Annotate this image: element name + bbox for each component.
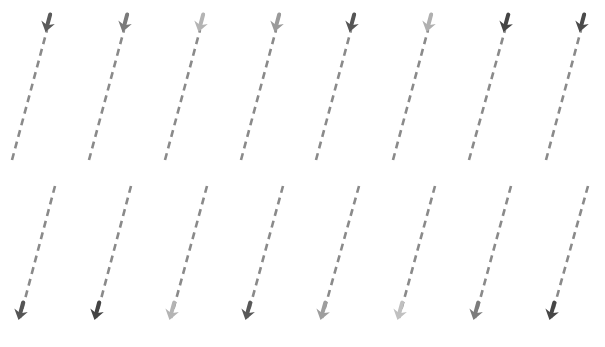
arrow-stem bbox=[21, 303, 24, 313]
top-dashed-arrow bbox=[393, 15, 436, 160]
arrow-stem bbox=[125, 15, 128, 25]
top-dashed-arrow bbox=[546, 15, 589, 160]
dashed-line bbox=[241, 30, 276, 160]
arrow-stem bbox=[506, 15, 509, 25]
dashed-line bbox=[322, 186, 359, 318]
arrow-stem bbox=[476, 303, 479, 313]
dashed-line bbox=[165, 30, 200, 160]
bottom-row-arrows bbox=[14, 186, 588, 320]
top-dashed-arrow bbox=[12, 15, 55, 160]
arrow-stem bbox=[201, 15, 204, 25]
arrow-stem bbox=[552, 303, 555, 313]
arrow-stem bbox=[172, 303, 175, 313]
dashed-line bbox=[399, 186, 435, 318]
bottom-dashed-arrow bbox=[14, 186, 55, 320]
bottom-dashed-arrow bbox=[545, 186, 588, 320]
bottom-dashed-arrow bbox=[241, 186, 283, 320]
top-dashed-arrow bbox=[165, 15, 208, 160]
top-dashed-arrow bbox=[469, 15, 513, 160]
arrow-stem bbox=[48, 15, 51, 25]
dashed-line bbox=[316, 30, 351, 160]
bottom-dashed-arrow bbox=[90, 186, 131, 320]
top-dashed-arrow bbox=[89, 15, 132, 160]
top-dashed-arrow bbox=[241, 15, 284, 160]
bottom-dashed-arrow bbox=[316, 186, 359, 320]
dashed-line bbox=[12, 30, 47, 160]
dashed-line bbox=[247, 186, 283, 318]
top-row-arrows bbox=[12, 15, 589, 160]
dashed-line bbox=[469, 30, 505, 160]
arrow-stem bbox=[97, 303, 100, 313]
top-dashed-arrow bbox=[316, 15, 359, 160]
dashed-line bbox=[393, 30, 428, 160]
arrow-stem bbox=[400, 303, 403, 313]
dashed-line bbox=[20, 186, 55, 318]
dashed-line bbox=[475, 186, 511, 318]
bottom-dashed-arrow bbox=[469, 186, 511, 320]
arrow-stem bbox=[277, 15, 280, 25]
arrow-stem bbox=[323, 303, 326, 313]
dashed-line bbox=[546, 30, 581, 160]
arrow-stem bbox=[248, 303, 251, 313]
dashed-line bbox=[171, 186, 207, 318]
arrow-stem bbox=[582, 15, 585, 25]
dashed-line bbox=[551, 186, 588, 318]
dashed-line bbox=[89, 30, 124, 160]
arrow-stem bbox=[429, 15, 432, 25]
arrow-diagram-canvas bbox=[0, 0, 605, 347]
arrow-stem bbox=[352, 15, 355, 25]
dashed-line bbox=[96, 186, 131, 318]
bottom-dashed-arrow bbox=[393, 186, 435, 320]
bottom-dashed-arrow bbox=[165, 186, 207, 320]
